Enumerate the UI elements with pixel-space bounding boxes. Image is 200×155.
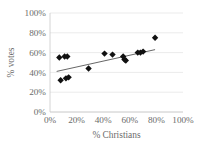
data-point-marker (56, 54, 62, 60)
gridlines (50, 13, 183, 112)
axis-lines (50, 13, 183, 112)
data-point-marker (85, 65, 91, 71)
x-axis-tick-labels: 0%20%40%60%80%100% (44, 115, 194, 125)
y-tick-label: 20% (29, 87, 46, 97)
y-tick-label: 100% (25, 8, 47, 18)
x-tick-label: 20% (68, 115, 85, 125)
data-point-marker (101, 50, 107, 56)
x-tick-label: 60% (121, 115, 138, 125)
y-tick-label: 60% (29, 48, 46, 58)
y-tick-label: 80% (29, 28, 46, 38)
data-point-marker (57, 77, 63, 83)
x-axis-title: % Christians (92, 130, 141, 140)
y-tick-label: 40% (29, 68, 46, 78)
chart-canvas: 0%20%40%60%80%100%0%20%40%60%80%100%% Ch… (0, 0, 200, 155)
scatter-chart: 0%20%40%60%80%100%0%20%40%60%80%100%% Ch… (0, 0, 200, 155)
data-points (56, 35, 158, 84)
x-tick-label: 0% (44, 115, 57, 125)
x-tick-label: 40% (95, 115, 112, 125)
y-axis-title: % votes (6, 47, 16, 77)
data-point-marker (152, 35, 158, 41)
x-tick-label: 100% (172, 115, 194, 125)
x-tick-label: 80% (148, 115, 165, 125)
y-axis-tick-labels: 0%20%40%60%80%100% (25, 8, 47, 117)
